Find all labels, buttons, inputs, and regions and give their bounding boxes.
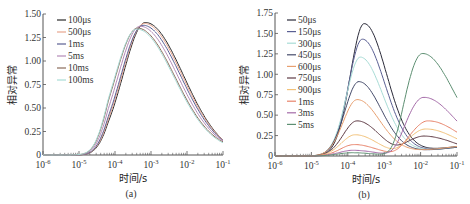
legend-label: 500μs — [68, 27, 91, 37]
panel-caption: (b) — [358, 189, 370, 201]
legend-label: 300μs — [298, 39, 321, 49]
legend-label: 5ms — [68, 51, 84, 61]
series-line — [275, 129, 457, 156]
x-tick-label: 10-6 — [36, 158, 52, 170]
x-axis-title: 时间/s — [119, 172, 148, 184]
panel-caption: (a) — [125, 188, 136, 200]
x-tick-label: 10-5 — [72, 158, 87, 170]
y-tick-label: 1.25 — [24, 33, 41, 43]
y-tick-label: 1.75 — [256, 8, 273, 18]
x-tick-label: 10-4 — [108, 158, 124, 170]
x-tick-label: 10-3 — [144, 158, 159, 170]
y-tick-label: 0.75 — [24, 80, 41, 90]
x-axis-title: 时间/s — [352, 173, 381, 185]
legend-label: 50μs — [298, 15, 317, 25]
x-tick-label: 10-5 — [304, 159, 319, 171]
legend-label: 5ms — [298, 120, 314, 130]
x-tick-label: 10-6 — [268, 159, 284, 171]
series-line — [275, 57, 457, 156]
y-tick-label: 0.50 — [256, 110, 273, 120]
legend-label: 750μs — [298, 73, 321, 83]
chart-a-svg: 00.250.500.751.001.251.5010-610-510-410-… — [0, 0, 235, 204]
y-tick-label: 1.00 — [256, 70, 273, 80]
y-tick-label: 1.50 — [256, 29, 273, 39]
y-tick-label: 0.75 — [256, 90, 273, 100]
legend-label: 900μs — [298, 85, 321, 95]
x-tick-label: 10-3 — [377, 159, 392, 171]
legend-label: 1ms — [68, 39, 84, 49]
x-tick-label: 10-4 — [340, 159, 356, 171]
y-tick-label: 0 — [268, 151, 273, 161]
y-tick-label: 1.00 — [24, 56, 41, 66]
legend-label: 100ms — [68, 75, 94, 85]
y-tick-label: 1.25 — [256, 49, 273, 59]
legend-label: 10ms — [68, 63, 89, 73]
y-tick-label: 0 — [36, 150, 41, 160]
legend-label: 100μs — [68, 15, 91, 25]
y-tick-label: 0.25 — [256, 131, 273, 141]
y-axis-title: 相对异常 — [238, 65, 250, 105]
x-tick-label: 10-2 — [180, 158, 195, 170]
x-tick-label: 10-2 — [413, 159, 428, 171]
chart-panel-a: 00.250.500.751.001.251.5010-610-510-410-… — [0, 0, 235, 204]
x-tick-label: 10-1 — [216, 158, 231, 170]
legend-label: 450μs — [298, 50, 321, 60]
chart-panel-b: 00.250.500.751.001.251.501.7510-610-510-… — [235, 0, 470, 204]
chart-b-svg: 00.250.500.751.001.251.501.7510-610-510-… — [235, 0, 470, 204]
legend-label: 600μs — [298, 62, 321, 72]
y-tick-label: 0.25 — [24, 127, 41, 137]
legend-label: 1ms — [298, 97, 314, 107]
legend-label: 150μs — [298, 27, 321, 37]
y-tick-label: 0.50 — [24, 103, 41, 113]
y-tick-label: 1.50 — [24, 9, 41, 19]
legend-label: 3ms — [298, 108, 314, 118]
x-tick-label: 10-1 — [450, 159, 465, 171]
y-axis-title: 相对异常 — [6, 65, 18, 105]
